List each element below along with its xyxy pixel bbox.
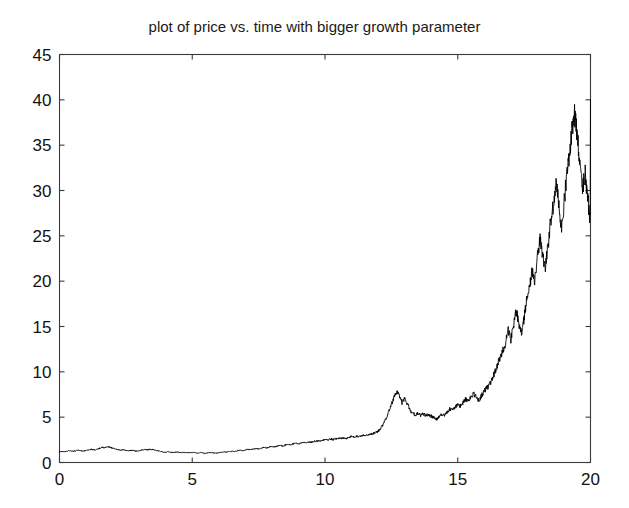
axes-group — [60, 55, 591, 463]
x-tick-label-0: 0 — [55, 470, 64, 489]
y-tick-label-1: 5 — [42, 408, 51, 427]
y-tick-label-2: 10 — [33, 363, 52, 382]
y-tick-label-9: 45 — [33, 46, 52, 65]
x-tick-label-2: 10 — [316, 470, 335, 489]
data-series-group — [60, 100, 591, 454]
x-tick-label-4: 20 — [581, 470, 600, 489]
y-axis-tick-labels: 051015202530354045 — [33, 46, 52, 473]
plot-canvas: 051015202530354045 05101520 — [0, 0, 629, 508]
y-tick-label-5: 25 — [33, 227, 52, 246]
y-tick-label-7: 35 — [33, 136, 52, 155]
axes-box — [60, 55, 591, 463]
figure-container: plot of price vs. time with bigger growt… — [0, 0, 629, 508]
x-axis-tick-labels: 05101520 — [55, 470, 600, 489]
y-tick-label-8: 40 — [33, 91, 52, 110]
y-tick-label-0: 0 — [42, 454, 51, 473]
x-tick-label-3: 15 — [448, 470, 467, 489]
x-tick-label-1: 5 — [188, 470, 197, 489]
y-tick-label-6: 30 — [33, 182, 52, 201]
y-tick-label-3: 15 — [33, 318, 52, 337]
y-tick-label-4: 20 — [33, 272, 52, 291]
data-line-price — [60, 100, 591, 454]
ticks-group — [60, 55, 591, 463]
